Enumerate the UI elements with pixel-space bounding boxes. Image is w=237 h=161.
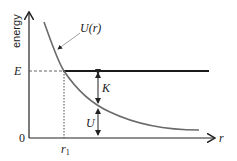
potential-label: U [86, 116, 96, 130]
y-axis-label: energy [10, 14, 22, 48]
energy-level-label: E [13, 64, 22, 78]
potential-arrow-head-top [95, 108, 101, 114]
r1-label: r1 [61, 142, 70, 157]
x-axis-label: r [219, 131, 224, 145]
origin-label: 0 [19, 131, 25, 145]
kinetic-label: K [101, 81, 111, 95]
curve-label: U(r) [80, 21, 101, 35]
curve-label-pointer [58, 33, 80, 49]
kinetic-arrow-head-top [95, 72, 101, 78]
energy-diagram: energy r 0 E U(r) K U r1 [0, 0, 237, 161]
potential-curve [44, 22, 199, 130]
